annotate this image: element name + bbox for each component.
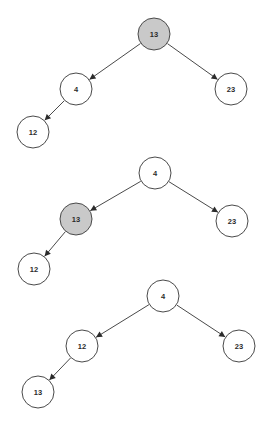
tree-node[interactable]: 4 — [139, 157, 171, 189]
tree-node[interactable]: 23 — [215, 73, 247, 105]
edge-arrowhead-icon — [211, 73, 218, 79]
node-label: 13 — [34, 388, 42, 397]
tree-node[interactable]: 4 — [60, 73, 92, 105]
node-label: 13 — [72, 215, 80, 224]
tree-edge — [169, 182, 218, 213]
tree-nodes-tree-step-3: 4122313 — [22, 280, 255, 408]
edge-arrowhead-icon — [96, 332, 103, 338]
tree-node[interactable]: 23 — [216, 205, 248, 237]
tree-node[interactable]: 4 — [147, 280, 179, 312]
node-label: 23 — [227, 85, 235, 94]
node-label: 23 — [235, 342, 243, 351]
tree-edge — [96, 305, 149, 338]
tree-node[interactable]: 13 — [138, 18, 170, 50]
nodes-layer: 134231241323124122313 — [17, 18, 255, 408]
tree-node[interactable]: 12 — [18, 253, 50, 285]
tree-nodes-tree-step-2: 4132312 — [18, 157, 248, 285]
node-label: 12 — [30, 265, 38, 274]
node-label: 12 — [29, 128, 37, 137]
node-label: 12 — [78, 342, 86, 351]
node-label: 23 — [228, 217, 236, 226]
edge-arrowhead-icon — [211, 206, 218, 212]
tree-node[interactable]: 13 — [60, 203, 92, 235]
tree-edge — [167, 44, 217, 80]
tree-node[interactable]: 23 — [223, 330, 255, 362]
tree-node[interactable]: 12 — [17, 116, 49, 148]
tree-canvas: 134231241323124122313 — [0, 0, 276, 429]
tree-node[interactable]: 13 — [22, 376, 54, 408]
edge-arrowhead-icon — [89, 74, 96, 80]
binary-tree-rotation-diagram: 134231241323124122313 — [0, 0, 276, 429]
tree-nodes-tree-step-1: 1342312 — [17, 18, 247, 148]
tree-edge — [177, 305, 225, 337]
tree-node[interactable]: 12 — [66, 330, 98, 362]
node-label: 13 — [150, 30, 158, 39]
edge-arrowhead-icon — [218, 331, 225, 337]
tree-edge — [90, 181, 140, 210]
tree-edge — [89, 44, 140, 80]
